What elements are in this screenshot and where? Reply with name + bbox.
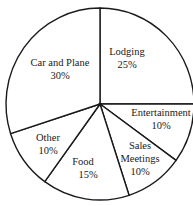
pie-center-dot	[98, 102, 101, 105]
pct-food: 15%	[78, 169, 98, 180]
label-other: Other	[36, 132, 60, 143]
label-sales: Sales	[129, 140, 151, 151]
label-lodging: Lodging	[109, 46, 145, 57]
pie-chart: Lodging 25% Car and Plane 30% Entertainm…	[0, 0, 193, 206]
pct-entertainment: 10%	[151, 120, 171, 131]
label-car-and-plane: Car and Plane	[31, 57, 90, 68]
label-entertainment: Entertainment	[131, 107, 191, 118]
label-meetings: Meetings	[120, 153, 159, 164]
pct-other: 10%	[38, 145, 58, 156]
pct-lodging: 25%	[117, 59, 137, 70]
pct-sales-meetings: 10%	[130, 166, 150, 177]
label-food: Food	[72, 156, 94, 167]
pct-car-and-plane: 30%	[50, 70, 70, 81]
